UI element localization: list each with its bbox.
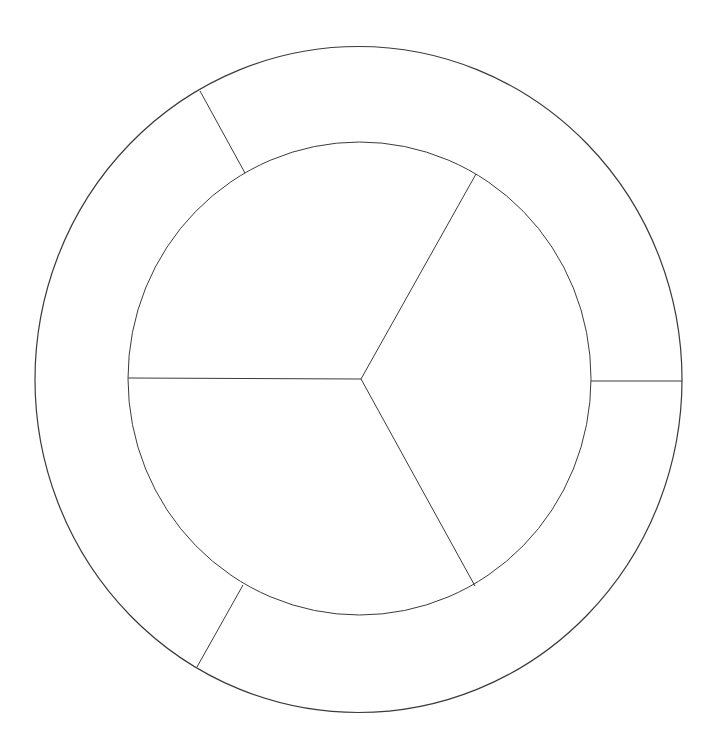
ring-diagram-svg: [0, 0, 717, 751]
inner-spoke-3: [361, 379, 475, 586]
inner-circle: [128, 142, 591, 615]
outer-ring-divider-3: [197, 585, 243, 667]
ring-diagram: [0, 0, 717, 751]
inner-spoke-2: [361, 174, 476, 379]
outer-ring-divider-2: [200, 91, 245, 173]
outer-ring-boundary: [35, 47, 682, 713]
outer-ring: [35, 47, 682, 713]
inner-spoke-1: [128, 378, 361, 379]
